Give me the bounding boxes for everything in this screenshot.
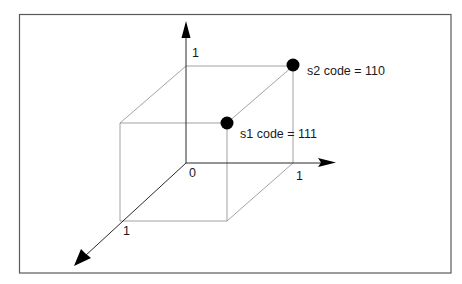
cube-diagram (0, 0, 462, 284)
point-s2 (287, 59, 300, 72)
depth-axis (85, 163, 186, 256)
vertical-axis-tick-label: 1 (192, 47, 199, 60)
vertical-axis-arrow-icon (182, 21, 191, 38)
cube-edge (227, 66, 293, 123)
origin-label: 0 (189, 167, 196, 180)
point-s2-label: s2 code = 110 (307, 65, 385, 78)
cube-back-face (186, 66, 293, 163)
cube-front-face (120, 123, 227, 221)
diagram-frame (20, 15, 452, 274)
cube-edge (120, 66, 186, 123)
depth-axis-tick-label: 1 (123, 225, 130, 238)
axes (74, 21, 336, 266)
point-s1 (221, 117, 234, 130)
depth-axis-arrow-icon (74, 249, 91, 266)
horizontal-axis-tick-label: 1 (296, 170, 303, 183)
cube-edge (227, 163, 293, 221)
point-s1-label: s1 code = 111 (240, 128, 317, 141)
cube-connecting-edges (120, 66, 293, 221)
